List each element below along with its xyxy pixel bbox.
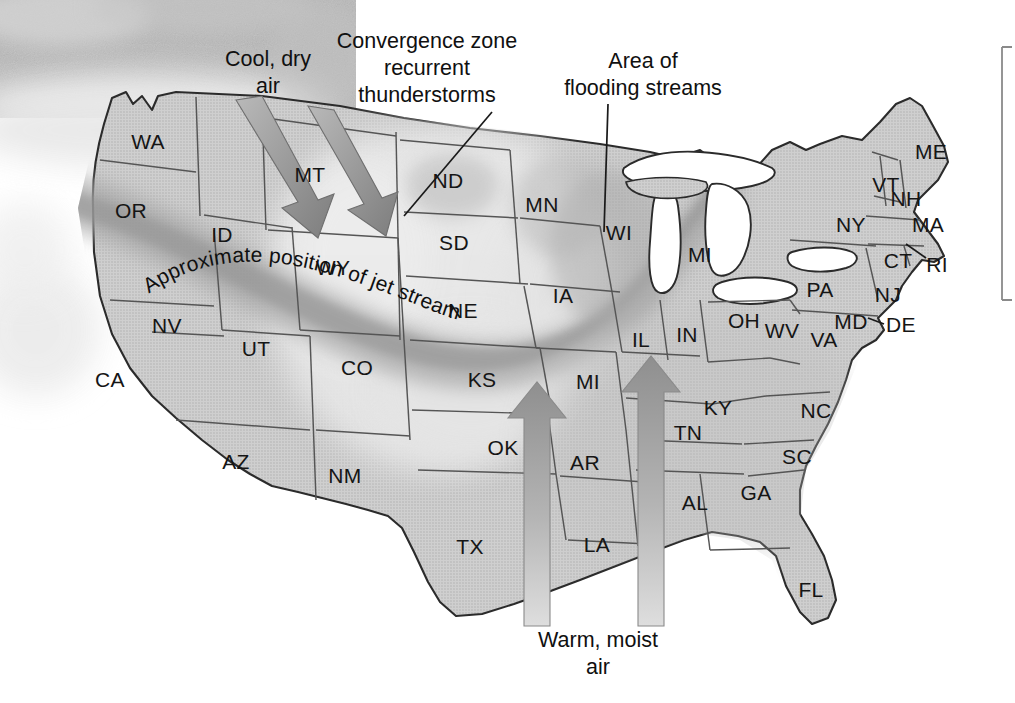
state-label-id-4: ID <box>211 223 233 246</box>
state-label-la-21: LA <box>584 533 610 556</box>
state-label-ks-14: KS <box>468 368 497 391</box>
us-weather-map: WAORCANVIDMTWYUTAZNMCONDSDNEKSOKTXMNIAMI… <box>0 0 1015 703</box>
annotation-line: Warm, moist <box>538 628 658 652</box>
annotation-line: air <box>256 74 280 98</box>
state-label-ri-42: RI <box>926 253 948 276</box>
state-label-sd-12: SD <box>439 231 469 254</box>
state-label-ga-30: GA <box>741 481 772 504</box>
state-label-tn-28: TN <box>674 421 703 444</box>
state-label-ut-7: UT <box>242 337 271 360</box>
state-label-me-46: ME <box>915 140 947 163</box>
annotation-line: Cool, dry <box>225 47 311 71</box>
state-label-ma-43: MA <box>912 213 944 236</box>
state-label-vt-45: VT <box>872 173 899 196</box>
state-label-nj-39: NJ <box>875 283 901 306</box>
state-label-az-8: AZ <box>222 450 249 473</box>
state-label-ar-20: AR <box>570 451 600 474</box>
state-label-sc-32: SC <box>782 445 812 468</box>
state-label-nc-33: NC <box>801 399 832 422</box>
state-label-al-29: AL <box>682 491 708 514</box>
annotation-line: air <box>586 655 610 679</box>
state-label-nd-11: ND <box>433 169 464 192</box>
state-label-md-37: MD <box>834 310 867 333</box>
annotation-line: Convergence zone <box>337 29 517 53</box>
state-label-co-10: CO <box>341 356 373 379</box>
state-label-fl-31: FL <box>798 578 823 601</box>
state-label-mt-5: MT <box>295 163 326 186</box>
state-label-oh-26: OH <box>728 309 760 332</box>
state-label-ny-40: NY <box>836 213 866 236</box>
state-label-il-23: IL <box>632 328 650 351</box>
weather-map-figure: WAORCANVIDMTWYUTAZNMCONDSDNEKSOKTXMNIAMI… <box>0 0 1015 703</box>
state-label-wv-35: WV <box>765 319 799 342</box>
annotation-line: Area of <box>608 49 677 73</box>
state-label-in-24: IN <box>676 323 698 346</box>
lake-ontario <box>788 248 857 272</box>
state-label-wa-0: WA <box>131 130 165 153</box>
state-label-wi-22: WI <box>606 221 632 244</box>
state-label-mi-25: MI <box>688 243 712 266</box>
state-label-ky-27: KY <box>704 396 733 419</box>
lake-michigan <box>649 188 680 293</box>
state-label-tx-16: TX <box>456 535 483 558</box>
state-label-ia-18: IA <box>553 284 573 307</box>
annotation-line: recurrent <box>384 56 470 80</box>
state-label-ok-15: OK <box>488 436 519 459</box>
state-label-mn-17: MN <box>525 193 558 216</box>
state-label-nm-9: NM <box>328 464 361 487</box>
state-label-ca-2: CA <box>95 368 125 391</box>
state-label-pa-36: PA <box>806 278 833 301</box>
state-label-mi-19: MI <box>576 370 600 393</box>
state-label-ct-41: CT <box>884 249 913 272</box>
state-label-nv-3: NV <box>152 314 182 337</box>
annotation-line: flooding streams <box>564 76 722 100</box>
state-label-de-38: DE <box>886 313 916 336</box>
annotation-line: thunderstorms <box>358 83 495 107</box>
state-label-or-1: OR <box>115 199 147 222</box>
